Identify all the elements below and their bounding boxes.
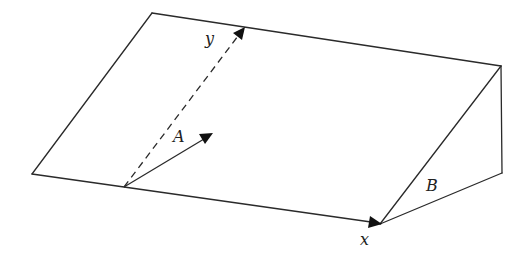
wedge-back-vertical-edge (501, 66, 502, 173)
incline-bottom-left-edge (32, 174, 124, 187)
x-axis-vector (124, 187, 382, 228)
label-A: A (171, 127, 185, 146)
vector-A (124, 133, 213, 187)
vector-B-line (380, 66, 501, 224)
wedge-base-right-edge (380, 173, 502, 224)
incline-left-edge (32, 13, 152, 174)
y-axis-vector (124, 27, 245, 187)
inclined-plane-diagram: y A B x (0, 0, 529, 254)
y-arrowhead-icon (233, 27, 245, 40)
A-arrowhead-icon (199, 133, 213, 144)
label-y: y (204, 29, 215, 48)
label-B: B (425, 176, 438, 195)
label-x: x (360, 230, 369, 249)
x-arrowhead-icon (368, 216, 382, 228)
